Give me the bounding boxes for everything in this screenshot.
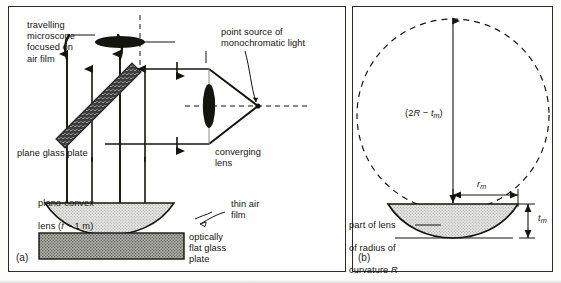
panel-a-stage: travelling microscope focused on air fil… xyxy=(9,7,345,271)
thickness-sub: m xyxy=(541,216,547,225)
source-cone-upper xyxy=(209,69,258,106)
label-lens-note: part of lens of radius of curvature R xyxy=(328,209,398,283)
thin-air-film-leader xyxy=(200,212,225,224)
source-cone-lower xyxy=(209,106,258,144)
lens-note-radius-symbol: R xyxy=(391,265,398,275)
radius-dimension-arrow-right xyxy=(510,192,518,199)
lens-note-line1: part of lens xyxy=(349,220,396,230)
panel-b-stage: (2R − tm) rm tm part of lens of radius o… xyxy=(353,7,552,271)
thin-air-film-leader-tip xyxy=(200,222,206,227)
point-source-leader xyxy=(245,51,256,102)
panel-b-lens-curvature-geometry: (2R − tm) rm tm part of lens of radius o… xyxy=(352,6,553,272)
lens-note-line2: of radius of xyxy=(349,243,396,253)
label-converging-lens: converging lens xyxy=(215,147,261,169)
label-travelling-microscope: travelling microscope focused on air fil… xyxy=(27,20,75,65)
panel-a-newtons-rings-apparatus: travelling microscope focused on air fil… xyxy=(8,6,346,272)
figure-root: travelling microscope focused on air fil… xyxy=(0,0,561,283)
plano-convex-line2-pre: lens ( xyxy=(38,221,61,231)
beam-splitter-plate-icon xyxy=(56,63,141,148)
lens-segment-icon xyxy=(388,204,518,238)
radius-sub: m xyxy=(480,182,486,191)
diameter-post: ) xyxy=(440,108,443,118)
thickness-dimension-arrow-top xyxy=(525,204,532,212)
label-plane-glass-plate: plane glass plate xyxy=(17,148,88,159)
microscope-objective-lens-icon xyxy=(95,36,145,48)
thickness-dimension-arrow-bottom xyxy=(525,230,532,238)
label-optically-flat-glass-plate: optically flat glass plate xyxy=(189,232,226,266)
label-point-source: point source of monochromatic light xyxy=(221,27,305,49)
label-thickness-tm: tm xyxy=(538,213,547,226)
point-source-dot xyxy=(255,103,260,108)
plano-convex-line1: plano-convex xyxy=(38,198,94,208)
panel-a-tag: (a) xyxy=(16,252,28,263)
label-diameter-expression: (2R − tm) xyxy=(405,108,443,121)
converging-lens-icon xyxy=(203,84,215,128)
label-plano-convex-lens: plano-convex lens (f ~ 1 m) xyxy=(17,187,94,243)
plano-convex-line2-post: ~ 1 m) xyxy=(64,221,94,231)
lens-note-line3-pre: curvature xyxy=(349,265,391,275)
page-baseline-strip xyxy=(0,279,561,283)
panel-b-tag: (b) xyxy=(358,252,370,263)
thin-air-film-leader-2 xyxy=(195,212,212,219)
label-radius-rm: rm xyxy=(477,179,486,192)
label-thin-air-film: thin air film xyxy=(231,199,259,221)
diameter-minus: − xyxy=(420,108,431,118)
